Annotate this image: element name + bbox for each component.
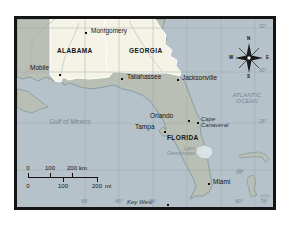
compass-south-label: S	[247, 74, 250, 79]
lat-label-28: 28°	[259, 119, 267, 124]
city-dot-cape-canaveral	[197, 122, 199, 124]
scale-km-unit: km	[79, 165, 87, 171]
feature-label-cape-canaveral: Cape Canaveral	[201, 116, 228, 129]
scale-km-0: 0	[26, 165, 29, 171]
cape-line2: Canaveral	[201, 122, 228, 128]
water-label-atlantic-ocean: ATLANTIC OCEAN	[222, 92, 272, 105]
scale-mi-200: 200	[92, 183, 102, 189]
compass-west-label: W	[229, 55, 233, 60]
city-dot-tallahassee	[121, 78, 123, 80]
water-label-gulf-of-mexico: Gulf of Mexico	[35, 119, 105, 126]
city-dot-montgomery	[85, 32, 87, 34]
lat-label-32: 32°	[259, 24, 267, 29]
scale-mi-100: 100	[58, 183, 68, 189]
city-dot-tampa	[164, 131, 166, 133]
city-label-tallahassee: Tallahassee	[127, 74, 161, 81]
scale-km-200: 200	[67, 165, 77, 171]
scale-tick	[97, 177, 98, 182]
scale-mi-0: 0	[26, 183, 29, 189]
city-label-tampa: Tampa	[135, 124, 155, 131]
lat-label-26: 26°	[236, 170, 244, 175]
city-label-montgomery: Montgomery	[91, 28, 127, 35]
lon-label-86: 86°	[115, 199, 123, 204]
lake-line2: Okeechobee	[157, 151, 195, 156]
city-dot-miami	[208, 183, 210, 185]
lon-label-88: 88°	[81, 199, 89, 204]
state-label-alabama: ALABAMA	[57, 48, 93, 55]
city-label-orlando: Orlando	[150, 113, 173, 120]
lat-label-30: 30°	[259, 68, 267, 73]
city-label-mobile: Mobile	[30, 65, 49, 72]
scale-tick	[50, 173, 51, 178]
lon-label-78: 78°	[260, 199, 268, 204]
lon-label-84: 84°	[149, 199, 157, 204]
city-dot-jacksonville	[177, 79, 179, 81]
scale-km-100: 100	[45, 165, 55, 171]
scale-tick	[63, 177, 64, 182]
florida-key	[170, 203, 172, 205]
feature-label-lake-okeechobee: Lake Okeechobee	[157, 146, 195, 157]
city-dot-key-west	[167, 204, 169, 206]
compass-east-label: E	[266, 55, 269, 60]
city-dot-orlando	[188, 120, 190, 122]
map-screenshot: ALABAMA GEORGIA FLORIDA Montgomery Mobil…	[0, 0, 290, 230]
lon-label-80: 80°	[235, 199, 243, 204]
scale-tick	[28, 173, 29, 178]
compass-north-label: N	[247, 36, 250, 41]
city-dot-mobile	[59, 74, 61, 76]
island-small	[261, 195, 269, 197]
scale-tick	[72, 173, 73, 178]
city-label-jacksonville: Jacksonville	[182, 75, 217, 82]
florida-key	[176, 201, 178, 203]
city-label-miami: Miami	[213, 179, 230, 186]
florida-key	[182, 199, 184, 201]
state-label-georgia: GEORGIA	[129, 48, 163, 55]
map-frame: ALABAMA GEORGIA FLORIDA Montgomery Mobil…	[14, 16, 276, 210]
barrier-island	[41, 82, 54, 83]
state-label-florida: FLORIDA	[167, 135, 199, 142]
map-canvas: ALABAMA GEORGIA FLORIDA Montgomery Mobil…	[17, 19, 273, 207]
scale-mi-unit: mi	[105, 183, 111, 189]
atlantic-line2: OCEAN	[222, 98, 272, 104]
